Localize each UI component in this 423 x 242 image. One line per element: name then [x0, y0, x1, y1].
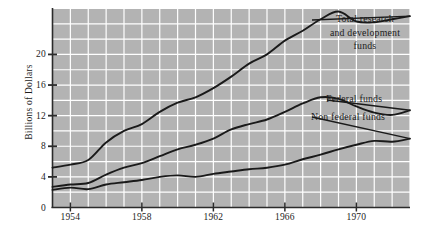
- series-label-non-federal-funds: Non federal funds: [311, 110, 423, 124]
- series-label-total-research: Total research and development funds: [311, 12, 419, 53]
- chart-figure: Billions of Dollars 048121620 1954195819…: [0, 0, 423, 242]
- series-label-federal-funds: Federal funds: [326, 92, 422, 106]
